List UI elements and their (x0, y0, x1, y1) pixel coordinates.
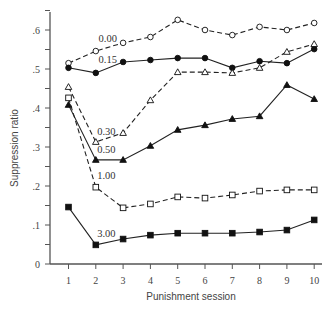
x-tick-label: 9 (284, 275, 289, 286)
square-marker (93, 242, 99, 248)
x-tick-label: 3 (121, 275, 126, 286)
circle-marker (311, 20, 317, 26)
square-marker (202, 230, 208, 236)
y-tick-label: .2 (33, 181, 41, 192)
square-marker (148, 232, 154, 238)
circle-marker (202, 55, 208, 61)
circle-marker (66, 65, 72, 71)
x-tick-label: 1 (66, 275, 71, 286)
series-label: 0.50 (97, 144, 115, 155)
y-tick-label: 0 (35, 259, 40, 270)
x-tick-label: 7 (230, 275, 235, 286)
circle-marker (257, 24, 263, 30)
x-tick-label: 8 (257, 275, 262, 286)
triangle-marker (311, 41, 318, 47)
series-3-00: 3.00 (66, 204, 317, 247)
circle-marker (284, 27, 290, 33)
square-marker (311, 217, 317, 223)
triangle-marker (174, 69, 181, 75)
y-axis-label: Suppression ratio (9, 109, 20, 187)
y-tick-label: .4 (33, 103, 41, 114)
triangle-marker (147, 143, 154, 149)
circle-marker (284, 60, 290, 66)
square-marker (120, 205, 126, 211)
triangle-marker (65, 84, 72, 90)
square-marker (257, 229, 263, 235)
circle-marker (93, 70, 99, 76)
suppression-ratio-chart: 0.1.2.3.4.5.612345678910 0.000.150.300.5… (0, 0, 335, 312)
series-group: 0.000.150.300.501.003.00 (65, 17, 317, 248)
series-label: 3.00 (97, 228, 115, 239)
x-tick-label: 5 (175, 275, 180, 286)
circle-marker (148, 34, 154, 40)
series-label: 0.15 (99, 54, 117, 65)
circle-marker (311, 46, 317, 52)
x-tick-label: 6 (203, 275, 208, 286)
y-tick-label: .1 (33, 220, 41, 231)
square-marker (284, 227, 290, 233)
square-marker (148, 201, 154, 207)
series-0-50: 0.50 (65, 82, 317, 163)
circle-marker (148, 57, 154, 63)
square-marker (284, 187, 290, 193)
square-marker (120, 236, 126, 242)
circle-marker (120, 40, 126, 46)
circle-marker (230, 32, 236, 38)
triangle-marker (311, 96, 318, 102)
triangle-marker (120, 130, 127, 136)
square-marker (93, 184, 99, 190)
square-marker (230, 230, 236, 236)
square-marker (66, 204, 72, 210)
square-marker (202, 195, 208, 201)
series-0-15: 0.15 (66, 46, 317, 75)
triangle-marker (284, 82, 291, 88)
square-marker (311, 187, 317, 193)
y-tick-label: .6 (33, 25, 41, 36)
x-axis-label: Punishment session (146, 291, 236, 302)
x-tick-label: 4 (148, 275, 153, 286)
y-tick-label: .3 (33, 142, 41, 153)
triangle-marker (256, 65, 263, 71)
series-label: 1.00 (97, 170, 115, 181)
circle-marker (257, 58, 263, 64)
x-tick-label: 2 (93, 275, 98, 286)
series-label: 0.30 (97, 126, 115, 137)
axes: 0.1.2.3.4.5.612345678910 (33, 11, 323, 287)
circle-marker (93, 48, 99, 54)
square-marker (230, 192, 236, 198)
y-tick-label: .5 (33, 64, 41, 75)
circle-marker (175, 17, 181, 23)
x-tick-label: 10 (309, 275, 319, 286)
circle-marker (120, 59, 126, 65)
square-marker (257, 188, 263, 194)
series-label: 0.00 (99, 33, 117, 44)
square-marker (66, 95, 72, 101)
circle-marker (175, 55, 181, 61)
square-marker (175, 194, 181, 200)
square-marker (175, 230, 181, 236)
circle-marker (202, 27, 208, 33)
